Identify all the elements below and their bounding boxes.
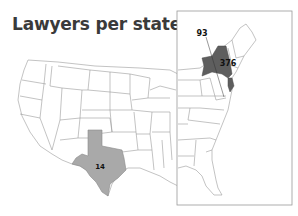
label-texas: 14	[95, 163, 105, 171]
label-newyork: 376	[220, 59, 237, 68]
us-map: 14 376 93	[0, 0, 298, 216]
label-dc: 93	[196, 29, 207, 38]
